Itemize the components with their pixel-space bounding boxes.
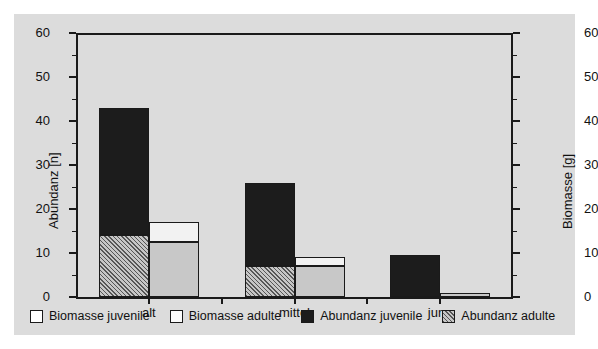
tick-left-0 bbox=[69, 296, 76, 298]
tick-right-20 bbox=[513, 208, 520, 210]
tick-left-40 bbox=[69, 120, 76, 122]
legend-label: Abundanz adulte bbox=[461, 309, 555, 323]
legend-item-abundanz-adulte: Abundanz adulte bbox=[442, 309, 555, 323]
tick-label-left-20: 20 bbox=[36, 202, 50, 215]
bar-biomasse-adulte-jung bbox=[440, 293, 490, 297]
bar-biomasse-adulte-mittel bbox=[295, 266, 345, 297]
tick-label-right-30: 30 bbox=[584, 158, 598, 171]
y-axis-right-label: Biomasse [g] bbox=[560, 154, 575, 229]
chart-figure: Abundanz [n] Biomasse [g] 0102030405060 … bbox=[14, 14, 575, 335]
minor-tick-right-15 bbox=[513, 231, 517, 232]
x-separator-2 bbox=[221, 297, 223, 304]
tick-label-right-10: 10 bbox=[584, 246, 598, 259]
y-axis-right-line bbox=[511, 33, 513, 299]
tick-label-left-40: 40 bbox=[36, 114, 50, 127]
tick-label-right-40: 40 bbox=[584, 114, 598, 127]
legend-swatch-hatched-square bbox=[442, 310, 455, 323]
bar-biomasse-adulte-alt bbox=[149, 242, 199, 297]
tick-right-40 bbox=[513, 120, 520, 122]
x-separator-5 bbox=[439, 297, 441, 304]
legend-item-biomasse-juvenile: Biomasse juvenile bbox=[30, 309, 150, 323]
tick-left-30 bbox=[69, 164, 76, 166]
plot-top-border bbox=[76, 33, 513, 35]
tick-label-left-50: 50 bbox=[36, 70, 50, 83]
tick-label-right-50: 50 bbox=[584, 70, 598, 83]
minor-tick-left-45 bbox=[72, 99, 76, 100]
minor-tick-left-35 bbox=[72, 143, 76, 144]
legend-item-biomasse-adulte: Biomasse adulte bbox=[170, 309, 281, 323]
tick-label-right-60: 60 bbox=[584, 26, 598, 39]
bar-biomasse-juvenile-alt bbox=[149, 222, 199, 242]
tick-label-right-0: 0 bbox=[584, 290, 591, 303]
tick-left-10 bbox=[69, 252, 76, 254]
tick-right-60 bbox=[513, 32, 520, 34]
tick-left-60 bbox=[69, 32, 76, 34]
bar-abundanz-juvenile-mittel bbox=[245, 183, 295, 267]
legend-label: Abundanz juvenile bbox=[320, 309, 422, 323]
tick-label-left-0: 0 bbox=[43, 290, 50, 303]
tick-label-left-30: 30 bbox=[36, 158, 50, 171]
tick-right-30 bbox=[513, 164, 520, 166]
legend-swatch-white-square bbox=[170, 310, 183, 323]
tick-left-20 bbox=[69, 208, 76, 210]
minor-tick-right-55 bbox=[513, 55, 517, 56]
tick-label-right-20: 20 bbox=[584, 202, 598, 215]
x-separator-4 bbox=[366, 297, 368, 304]
minor-tick-right-25 bbox=[513, 187, 517, 188]
minor-tick-right-5 bbox=[513, 275, 517, 276]
bar-abundanz-adulte-mittel bbox=[245, 266, 295, 297]
tick-label-left-60: 60 bbox=[36, 26, 50, 39]
minor-tick-right-45 bbox=[513, 99, 517, 100]
tick-label-left-10: 10 bbox=[36, 246, 50, 259]
tick-right-10 bbox=[513, 252, 520, 254]
x-separator-3 bbox=[294, 297, 296, 304]
chart-legend: Biomasse juvenileBiomasse adulteAbundanz… bbox=[30, 306, 570, 326]
tick-right-50 bbox=[513, 76, 520, 78]
x-separator-1 bbox=[148, 297, 150, 304]
y-axis-left-line bbox=[76, 33, 78, 299]
minor-tick-left-55 bbox=[72, 55, 76, 56]
legend-swatch-white-square bbox=[30, 310, 43, 323]
legend-label: Biomasse juvenile bbox=[49, 309, 150, 323]
tick-right-0 bbox=[513, 296, 520, 298]
bar-abundanz-juvenile-alt bbox=[99, 108, 149, 236]
minor-tick-left-25 bbox=[72, 187, 76, 188]
minor-tick-left-15 bbox=[72, 231, 76, 232]
minor-tick-right-35 bbox=[513, 143, 517, 144]
plot-area: 0102030405060 0102030405060 altmitteljun… bbox=[76, 33, 513, 299]
bar-abundanz-adulte-alt bbox=[99, 235, 149, 297]
minor-tick-left-5 bbox=[72, 275, 76, 276]
legend-item-abundanz-juvenile: Abundanz juvenile bbox=[301, 309, 422, 323]
legend-label: Biomasse adulte bbox=[189, 309, 281, 323]
tick-left-50 bbox=[69, 76, 76, 78]
bar-abundanz-juvenile-jung bbox=[390, 255, 440, 297]
bar-biomasse-juvenile-mittel bbox=[295, 257, 345, 266]
legend-swatch-black-square bbox=[301, 310, 314, 323]
